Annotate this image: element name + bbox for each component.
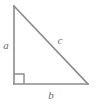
right-angle-marker-icon bbox=[14, 74, 24, 84]
label-leg-a: a bbox=[3, 39, 9, 51]
triangle-figure: a c b bbox=[0, 0, 100, 104]
label-leg-b: b bbox=[48, 89, 54, 101]
hypotenuse-line bbox=[14, 6, 88, 84]
label-hypotenuse-c: c bbox=[58, 34, 63, 46]
right-triangle-diagram: a c b bbox=[0, 0, 100, 104]
